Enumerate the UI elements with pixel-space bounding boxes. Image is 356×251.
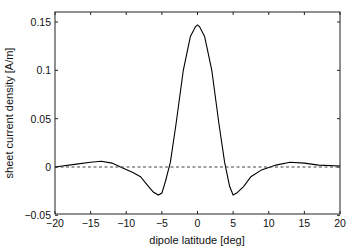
x-tick-label: 20 [334,217,346,229]
y-tick-label: −0.05 [24,209,51,221]
y-tick-label: 0.05 [31,113,52,125]
x-tick-label: 5 [230,217,236,229]
y-axis-ticks: −0.0500.050.10.15 [24,16,340,221]
data-line [55,25,340,195]
y-tick-label: 0.15 [31,16,52,28]
x-axis-label: dipole latitude [deg] [149,234,244,246]
x-tick-label: −10 [117,217,135,229]
y-tick-label: 0 [45,161,51,173]
x-tick-label: 0 [195,217,201,229]
x-axis-ticks: −20−15−10−505101520 [46,12,346,229]
axes-frame [55,12,340,214]
x-tick-label: 15 [299,217,311,229]
y-tick-label: 0.1 [36,64,51,76]
x-tick-label: −5 [156,217,168,229]
x-tick-label: −15 [82,217,100,229]
plot-area [55,12,340,214]
y-axis-label: sheet current density [A/m] [3,48,15,179]
line-chart: −20−15−10−505101520 −0.0500.050.10.15 di… [0,0,356,251]
x-tick-label: 10 [263,217,275,229]
